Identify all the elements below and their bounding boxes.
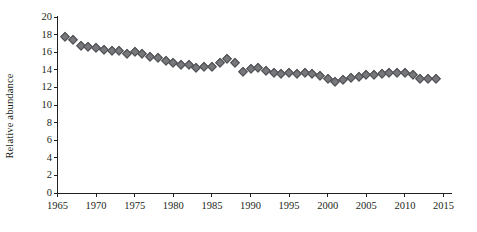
x-tick-label: 2005 (356, 201, 377, 212)
x-tick-label: 2010 (394, 201, 415, 212)
chart-container: Relative abundance 02468101214161820 196… (0, 0, 477, 232)
x-tick-label: 1985 (201, 201, 222, 212)
y-tick-label: 10 (20, 100, 52, 111)
y-tick-label: 18 (20, 29, 52, 40)
x-tick-label: 2015 (433, 201, 454, 212)
y-tick-label: 4 (20, 153, 52, 164)
x-tick-label: 1970 (86, 201, 107, 212)
y-tick-label: 20 (20, 12, 52, 23)
x-tick-label: 1990 (240, 201, 261, 212)
y-tick-label: 8 (20, 117, 52, 128)
x-tick-label: 1980 (163, 201, 184, 212)
y-tick-label: 12 (20, 82, 52, 93)
x-tick-label: 1975 (124, 201, 145, 212)
x-tick-label: 1995 (279, 201, 300, 212)
y-tick-label: 16 (20, 47, 52, 58)
y-tick-label: 2 (20, 170, 52, 181)
x-tick-label: 2000 (317, 201, 338, 212)
y-tick-label: 0 (20, 188, 52, 199)
y-tick-label: 6 (20, 135, 52, 146)
y-tick-label: 14 (20, 65, 52, 76)
x-tick-label: 1965 (47, 201, 68, 212)
